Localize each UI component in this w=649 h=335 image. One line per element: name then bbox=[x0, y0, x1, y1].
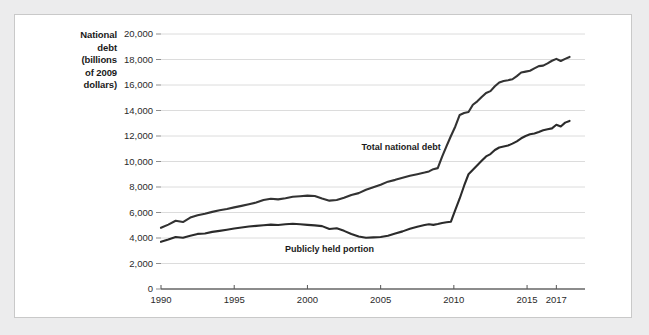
figure-panel: National debt (billions of 2009 dollars)… bbox=[14, 14, 632, 318]
chart-area: National debt (billions of 2009 dollars)… bbox=[15, 15, 633, 319]
series-line-0 bbox=[161, 57, 570, 228]
series-line-1 bbox=[161, 121, 570, 242]
plot-canvas bbox=[15, 15, 633, 319]
